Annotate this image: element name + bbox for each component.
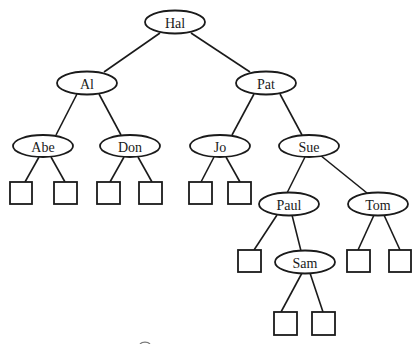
leaf-node xyxy=(228,182,251,204)
node-label: Jo xyxy=(214,140,226,155)
leaf-node xyxy=(54,182,77,204)
leaf-node xyxy=(347,250,370,272)
node-label: Don xyxy=(118,140,142,155)
node-abe: Abe xyxy=(13,135,73,157)
node-don: Don xyxy=(100,135,160,157)
tree-diagram: Hal Al Pat Abe Don Jo Sue Paul Tom Sam xyxy=(0,0,418,344)
leaf-node xyxy=(274,312,297,335)
leaf-node xyxy=(238,250,261,272)
leaf-node xyxy=(389,250,411,272)
node-sam: Sam xyxy=(275,251,335,274)
node-tom: Tom xyxy=(348,193,408,216)
leaf-node xyxy=(189,182,212,204)
node-hal: Hal xyxy=(145,11,205,34)
node-pat: Pat xyxy=(236,72,296,95)
leaf-node xyxy=(312,312,335,335)
node-label: Al xyxy=(80,77,94,92)
node-label: Hal xyxy=(165,16,185,31)
leaf-node xyxy=(139,182,162,204)
node-label: Pat xyxy=(257,77,275,92)
node-paul: Paul xyxy=(259,193,319,216)
leaf-node xyxy=(97,182,120,204)
node-label: Sam xyxy=(293,256,318,271)
node-label: Abe xyxy=(31,140,54,155)
node-label: Paul xyxy=(277,198,302,213)
node-label: Tom xyxy=(365,198,391,213)
node-sue: Sue xyxy=(279,135,339,157)
node-jo: Jo xyxy=(190,135,250,157)
leaf-node xyxy=(10,182,32,204)
node-label: Sue xyxy=(299,140,320,155)
node-al: Al xyxy=(57,72,117,95)
